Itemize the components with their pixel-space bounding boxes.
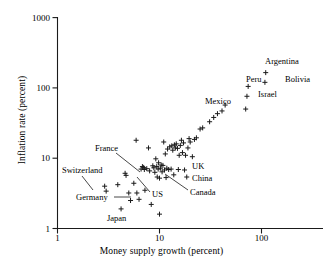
- data-point-marker: [163, 151, 168, 156]
- data-point-marker: [169, 167, 174, 172]
- data-point-marker: [161, 139, 166, 144]
- data-point-marker: [243, 107, 248, 112]
- country-label-germany: Germany: [76, 193, 108, 202]
- plot-canvas: [0, 0, 323, 261]
- y-tick-label: 100: [37, 83, 51, 93]
- france-leader: [116, 153, 140, 172]
- data-point-marker: [177, 153, 182, 158]
- data-point-marker: [134, 190, 139, 195]
- data-point-marker: [171, 172, 176, 177]
- data-point-marker: [198, 127, 203, 132]
- data-point-marker: [180, 150, 185, 155]
- data-point-marker: [157, 212, 162, 217]
- data-point-marker: [176, 167, 181, 172]
- country-label-us: US: [152, 190, 163, 199]
- data-point-marker: [200, 125, 205, 130]
- data-point-marker: [185, 145, 190, 150]
- country-label-switzerland: Switzerland: [62, 166, 103, 175]
- data-point-marker: [157, 176, 162, 181]
- data-point-marker: [244, 94, 249, 99]
- data-point-marker: [262, 80, 267, 85]
- data-point-marker: [215, 111, 220, 116]
- data-point-marker: [134, 138, 139, 143]
- x-tick-label: 10: [155, 233, 164, 243]
- data-point-marker: [190, 154, 195, 159]
- x-tick-label: 1: [55, 233, 60, 243]
- scatter-plot-figure: Money supply growth (percent) Inflation …: [0, 0, 323, 261]
- country-label-israel: Israel: [258, 90, 277, 99]
- country-label-peru: Peru: [246, 75, 262, 84]
- x-axis-title: Money supply growth (percent): [0, 246, 323, 256]
- country-label-japan: Japan: [107, 214, 126, 223]
- y-axis-title: Inflation rate (percent): [17, 40, 27, 200]
- data-point-marker: [246, 84, 251, 89]
- country-label-bolivia: Bolivia: [285, 75, 310, 84]
- data-point-marker: [263, 70, 268, 75]
- data-point-marker: [184, 175, 189, 180]
- canada-leader: [165, 174, 188, 190]
- data-point-marker: [182, 167, 187, 172]
- data-point-marker: [102, 184, 107, 189]
- us-leader: [137, 177, 150, 192]
- y-tick-label: 10: [41, 153, 50, 163]
- country-label-uk: UK: [192, 162, 204, 171]
- data-point-marker: [146, 145, 151, 150]
- country-label-canada: Canada: [190, 188, 216, 197]
- data-point-marker: [152, 170, 157, 175]
- switzerland-leader: [82, 176, 93, 190]
- data-point-marker: [183, 153, 188, 158]
- data-point-marker: [170, 148, 175, 153]
- y-tick-label: 1000: [32, 13, 50, 23]
- data-point-marker: [131, 181, 136, 186]
- country-label-argentina: Argentina: [265, 57, 299, 66]
- data-point-marker: [155, 175, 160, 180]
- data-point-marker: [153, 156, 158, 161]
- country-label-mexico: Mexico: [205, 97, 231, 106]
- data-points: [102, 70, 268, 217]
- data-point-marker: [211, 115, 216, 120]
- country-label-france: France: [95, 144, 118, 153]
- data-point-marker: [115, 182, 120, 187]
- y-tick-label: 1: [46, 224, 51, 234]
- data-point-marker: [128, 198, 133, 203]
- data-point-marker: [187, 136, 192, 141]
- x-tick-label: 100: [255, 233, 269, 243]
- data-point-marker: [119, 206, 124, 211]
- data-point-marker: [207, 119, 212, 124]
- country-label-china: China: [192, 174, 212, 183]
- data-point-marker: [126, 190, 131, 195]
- data-point-marker: [220, 108, 225, 113]
- data-point-marker: [188, 139, 193, 144]
- data-point-marker: [137, 197, 142, 202]
- data-point-marker: [149, 202, 154, 207]
